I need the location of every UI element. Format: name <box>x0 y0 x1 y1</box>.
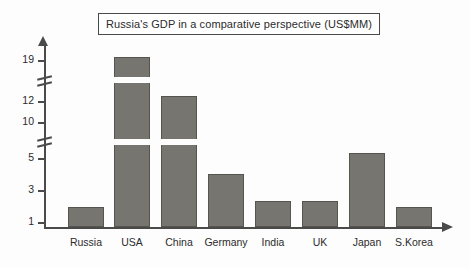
x-axis-arrow-icon <box>442 222 453 232</box>
y-tick-label: 19 <box>22 53 34 65</box>
category-label-russia: Russia <box>70 236 102 248</box>
bar-break-gap <box>113 77 151 83</box>
bar-china <box>161 96 197 227</box>
category-label-skorea: S.Korea <box>395 236 433 248</box>
y-tick-10: 10 <box>38 122 45 124</box>
category-label-china: China <box>165 236 192 248</box>
bar-skorea <box>396 207 432 227</box>
y-tick-12: 12 <box>38 101 45 103</box>
bar-japan <box>349 153 385 227</box>
axis-break-icon <box>37 137 52 146</box>
category-label-japan: Japan <box>353 236 382 248</box>
y-axis-line <box>44 44 46 228</box>
y-tick-3: 3 <box>38 190 45 192</box>
bar-russia <box>68 207 104 227</box>
bar-uk <box>302 201 338 227</box>
y-tick-label: 10 <box>22 115 34 127</box>
y-tick-label: 3 <box>28 183 34 195</box>
bar-germany <box>208 174 244 227</box>
y-tick-1: 1 <box>38 222 45 224</box>
y-tick-5: 5 <box>38 158 45 160</box>
bar-india <box>255 201 291 227</box>
category-label-india: India <box>262 236 285 248</box>
plot-area: 191210531 RussiaUSAChinaGermanyIndiaUKJa… <box>0 0 470 268</box>
y-axis-arrow-icon <box>38 36 48 46</box>
y-tick-label: 5 <box>28 151 34 163</box>
bar-break-gap <box>113 139 151 145</box>
bar-break-gap <box>160 139 198 145</box>
chart-screenshot: Russia's GDP in a comparative perspectiv… <box>0 0 470 268</box>
axis-break-icon <box>37 76 52 85</box>
category-label-germany: Germany <box>204 236 247 248</box>
y-tick-19: 19 <box>38 60 45 62</box>
x-axis-line <box>44 227 444 229</box>
category-label-usa: USA <box>121 236 143 248</box>
category-label-uk: UK <box>313 236 328 248</box>
y-tick-label: 1 <box>28 215 34 227</box>
y-tick-label: 12 <box>22 94 34 106</box>
